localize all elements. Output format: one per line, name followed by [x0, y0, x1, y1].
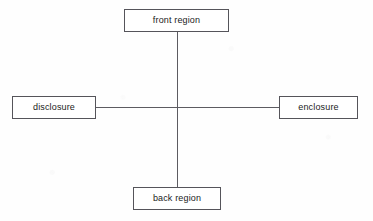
node-disclosure-label: disclosure	[33, 103, 75, 112]
edge-disclosure-to-enclosure	[96, 107, 279, 108]
node-back-region[interactable]: back region	[133, 187, 221, 210]
node-front-region-label: front region	[153, 16, 200, 25]
node-front-region[interactable]: front region	[124, 9, 229, 32]
diagram-canvas: front region disclosure enclosure back r…	[0, 0, 373, 221]
edge-front-region-to-back-region	[177, 32, 178, 187]
node-back-region-label: back region	[153, 194, 201, 203]
node-disclosure[interactable]: disclosure	[12, 96, 96, 119]
node-enclosure[interactable]: enclosure	[279, 96, 358, 119]
node-enclosure-label: enclosure	[298, 103, 338, 112]
